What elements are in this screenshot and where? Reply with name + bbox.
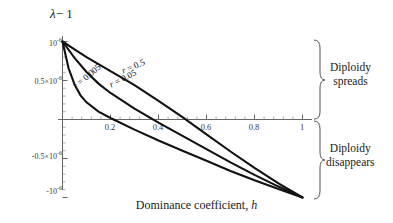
annotation-line-1: Diploidy (330, 60, 371, 74)
chart-figure: λ− 1 10-6 0.5×10-6 -0.5×10-6 -10-6 0.2 0… (0, 0, 393, 223)
annotation-line-2: disappears (326, 155, 375, 169)
x-axis-title: Dominance coefficient, h (0, 198, 393, 213)
annotation-line-1: Diploidy (326, 141, 375, 155)
annotation-diploidy-spreads: Diploidy spreads (330, 60, 371, 89)
brace-lower (314, 121, 325, 199)
annotation-diploidy-disappears: Diploidy disappears (326, 141, 375, 170)
x-axis-title-text: Dominance coefficient (136, 198, 245, 212)
brace-upper (314, 40, 325, 119)
x-axis-title-symbol: h (251, 198, 257, 212)
annotation-line-2: spreads (330, 74, 371, 88)
plot-canvas (0, 0, 393, 223)
